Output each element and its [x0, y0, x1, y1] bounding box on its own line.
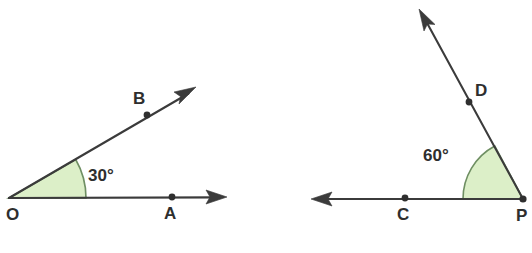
point-label-c: C	[397, 205, 409, 224]
point-label-b: B	[133, 89, 145, 108]
geometry-figure: O A B 30° P C D 60°	[0, 0, 532, 253]
point-dot-a	[169, 194, 176, 201]
point-label-d: D	[475, 81, 487, 100]
angle-diagrams-svg: O A B 30° P C D 60°	[0, 0, 532, 253]
figure-background	[0, 0, 532, 253]
vertex-dot-p	[519, 195, 526, 202]
point-dot-b	[144, 112, 151, 119]
point-label-a: A	[164, 204, 176, 223]
angle-measure-label-60: 60°	[423, 146, 449, 165]
point-dot-d	[466, 99, 473, 106]
ray-oa-line	[9, 197, 218, 198]
angle-measure-label-30: 30°	[88, 166, 114, 185]
point-label-o: O	[6, 205, 19, 224]
point-label-p: P	[516, 206, 527, 225]
point-dot-c	[402, 195, 409, 202]
vertex-dot-o	[9, 198, 10, 199]
